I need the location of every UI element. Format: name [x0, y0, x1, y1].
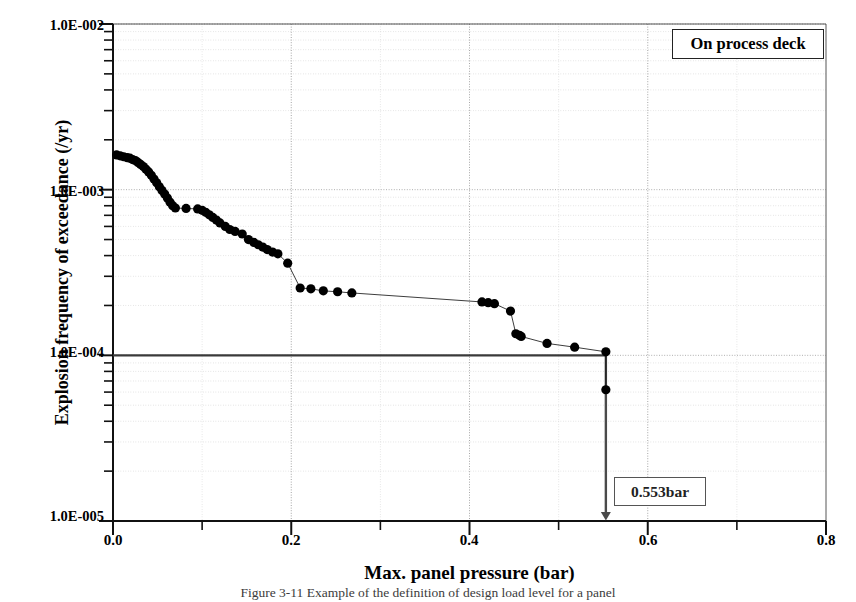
x-tick-label-0: 0.0 — [83, 532, 143, 549]
data-point — [542, 339, 551, 348]
data-point — [296, 283, 305, 292]
data-point — [570, 343, 579, 352]
data-point — [273, 249, 282, 258]
annotation-box-design-pressure: 0.553bar — [614, 477, 706, 506]
figure-caption: Figure 3-11 Example of the definition of… — [0, 585, 856, 601]
data-point — [601, 385, 610, 394]
figure-container: Explosion frequency of exceedance (/yr) … — [0, 0, 856, 602]
legend-label: On process deck — [690, 34, 805, 54]
y-tick-label-1: 1.0E-003 — [8, 183, 104, 200]
annotation-label: 0.553bar — [631, 483, 689, 501]
x-tick-label-4: 0.8 — [796, 532, 856, 549]
chart-plot-area — [0, 0, 856, 602]
data-point — [601, 347, 610, 356]
data-point — [347, 288, 356, 297]
x-tick-label-2: 0.4 — [439, 532, 499, 549]
y-tick-label-0: 1.0E-002 — [8, 17, 104, 34]
data-point — [181, 204, 190, 213]
y-tick-label-2: 1.0E-004 — [8, 344, 104, 361]
data-point — [490, 299, 499, 308]
x-tick-label-3: 0.6 — [618, 532, 678, 549]
annotation-arrow-head — [601, 512, 611, 521]
data-point — [333, 287, 342, 296]
x-tick-label-1: 0.2 — [261, 532, 321, 549]
data-point — [506, 306, 515, 315]
data-point — [283, 259, 292, 268]
data-point — [171, 203, 180, 212]
y-axis-title: Explosion frequency of exceedance (/yr) — [52, 43, 73, 503]
legend-box: On process deck — [672, 29, 824, 59]
data-point — [517, 332, 526, 341]
x-axis-title: Max. panel pressure (bar) — [113, 562, 826, 584]
y-tick-label-3: 1.0E-005 — [8, 508, 104, 525]
data-point — [319, 286, 328, 295]
data-point — [306, 284, 315, 293]
